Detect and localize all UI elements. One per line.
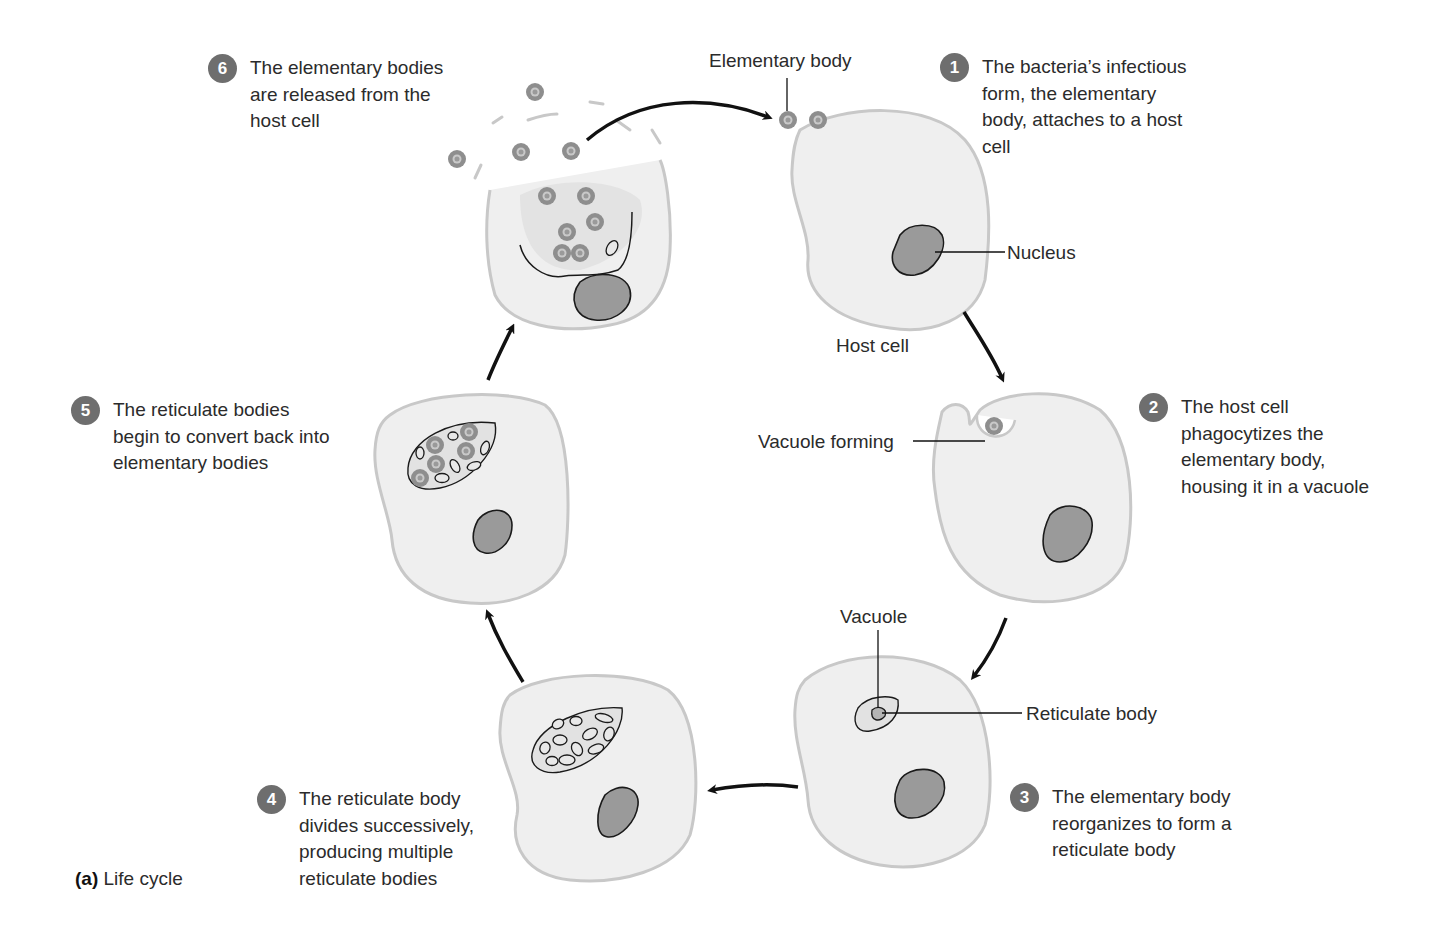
host-cell-stage-2 — [913, 394, 1131, 602]
step-number-badge: 6 — [208, 54, 237, 83]
step-description: The host cellphagocytizes theelementary … — [1181, 394, 1369, 500]
step-6: 6 The elementary bodiesare released from… — [208, 55, 443, 135]
step-number-badge: 5 — [71, 396, 100, 425]
step-description: The elementary bodyreorganizes to form a… — [1052, 784, 1232, 864]
step-description: The bacteria’s infectiousform, the eleme… — [982, 54, 1187, 160]
arrow-4-to-5 — [488, 614, 523, 682]
arrow-5-to-6 — [488, 328, 512, 380]
label-elementary-body: Elementary body — [709, 48, 852, 75]
elementary-body — [809, 111, 827, 129]
host-cell-stage-5 — [375, 395, 568, 604]
step-4: 4 The reticulate bodydivides successivel… — [257, 786, 474, 892]
elementary-body — [426, 436, 444, 454]
step-description: The reticulate bodiesbegin to convert ba… — [113, 397, 330, 477]
step-description: The reticulate bodydivides successively,… — [299, 786, 474, 892]
elementary-body — [448, 150, 466, 168]
step-2: 2 The host cellphagocytizes theelementar… — [1139, 394, 1369, 500]
step-3: 3 The elementary bodyreorganizes to form… — [1010, 784, 1232, 864]
host-cell-stage-3 — [795, 630, 1022, 867]
arrow-1-to-2 — [964, 312, 1002, 378]
arrow-6-to-1 — [587, 103, 768, 140]
step-number-badge: 4 — [257, 785, 286, 814]
elementary-body — [427, 455, 445, 473]
step-5: 5 The reticulate bodiesbegin to convert … — [71, 397, 330, 477]
elementary-body — [526, 83, 544, 101]
step-1: 1 The bacteria’s infectiousform, the ele… — [940, 54, 1187, 160]
host-cell-stage-4 — [500, 675, 696, 880]
caption-tag: (a) — [75, 868, 98, 889]
step-description: The elementary bodiesare released from t… — [250, 55, 443, 135]
label-nucleus: Nucleus — [1007, 240, 1076, 267]
elementary-body — [779, 111, 797, 129]
elementary-body — [558, 223, 576, 241]
step-number-badge: 1 — [940, 53, 969, 82]
elementary-body — [985, 417, 1003, 435]
label-vacuole: Vacuole — [840, 604, 907, 631]
label-vacuole-forming: Vacuole forming — [758, 429, 894, 456]
arrow-2-to-3 — [974, 618, 1006, 676]
elementary-body — [577, 187, 595, 205]
label-reticulate-body: Reticulate body — [1026, 701, 1157, 728]
elementary-body — [562, 142, 580, 160]
host-cell-stage-6 — [448, 83, 670, 329]
caption-text: Life cycle — [104, 868, 183, 889]
elementary-body — [586, 213, 604, 231]
figure-caption: (a) Life cycle — [75, 868, 183, 890]
elementary-body — [457, 442, 475, 460]
label-host-cell: Host cell — [836, 333, 909, 360]
step-number-badge: 2 — [1139, 393, 1168, 422]
elementary-body — [460, 423, 478, 441]
elementary-body — [553, 244, 571, 262]
elementary-body — [571, 244, 589, 262]
elementary-body — [538, 187, 556, 205]
reticulate-body — [872, 708, 886, 720]
elementary-body — [512, 143, 530, 161]
arrow-3-to-4 — [712, 785, 798, 790]
elementary-body — [411, 469, 429, 487]
step-number-badge: 3 — [1010, 783, 1039, 812]
